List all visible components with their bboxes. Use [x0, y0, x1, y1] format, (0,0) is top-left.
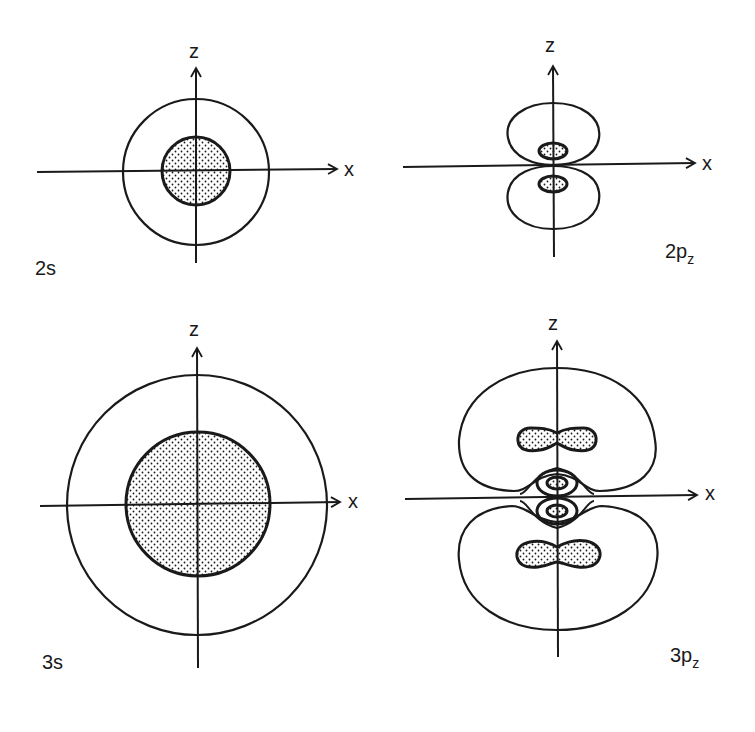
panel-3s: x z 3s — [40, 318, 358, 673]
panel-2s: x z 2s — [35, 40, 354, 279]
3s-x-axis-label: x — [348, 490, 358, 512]
2s-x-axis-label: x — [344, 158, 354, 180]
2pz-orbital-label: 2pz — [665, 240, 694, 267]
3pz-z-axis — [557, 341, 558, 657]
3pz-x-axis-label: x — [705, 482, 715, 504]
3s-orbital-label: 3s — [42, 651, 63, 673]
orbital-diagram: x z 2s x z 2pz x z 3s — [0, 0, 755, 732]
2pz-x-axis-label: x — [702, 152, 712, 174]
panel-2pz: x z 2pz — [403, 34, 712, 267]
2pz-z-axis-label: z — [545, 34, 555, 56]
panel-3pz: x z 3pz — [405, 312, 715, 671]
2pz-z-axis — [553, 66, 554, 257]
3pz-orbital-label: 3pz — [670, 644, 699, 671]
3s-z-axis-label: z — [189, 318, 199, 340]
2s-z-axis-label: z — [189, 40, 199, 62]
2s-orbital-label: 2s — [35, 257, 56, 279]
3pz-z-axis-label: z — [548, 312, 558, 334]
3s-z-axis — [197, 348, 198, 668]
